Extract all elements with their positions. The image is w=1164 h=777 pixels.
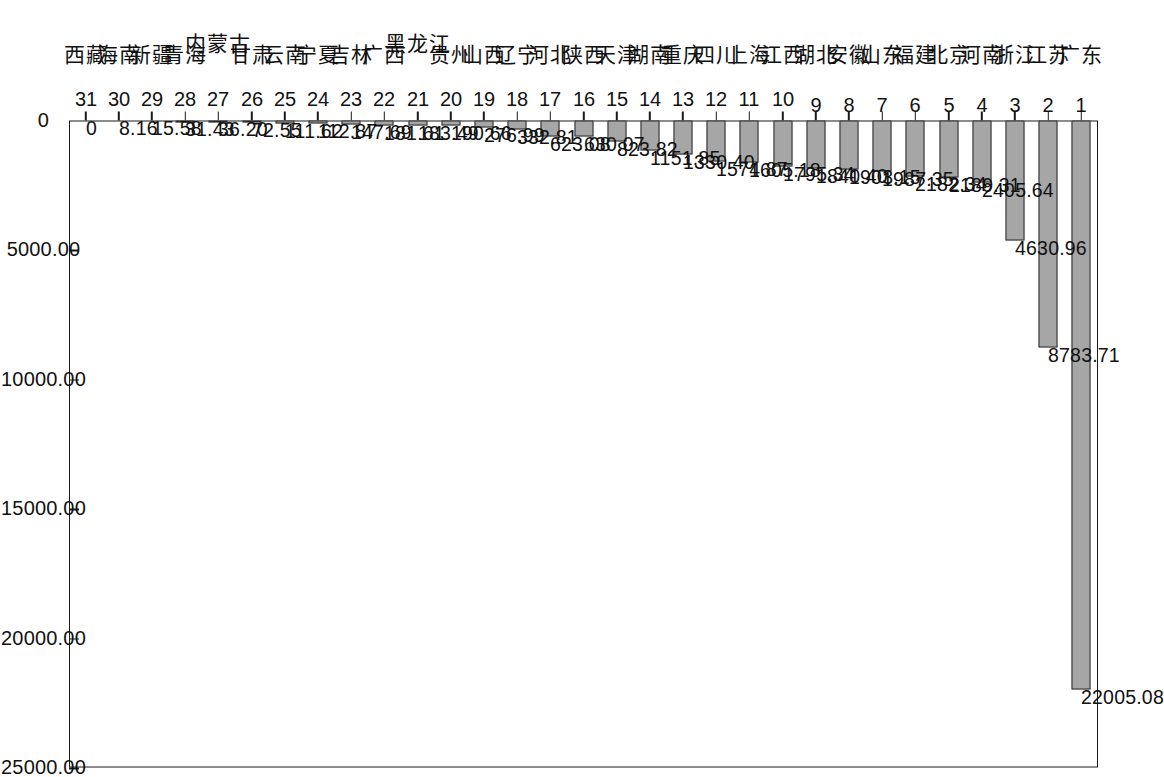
category-index-label: 25 bbox=[274, 87, 296, 110]
bar-row: 15.5829新疆 bbox=[135, 120, 168, 767]
category-tick bbox=[516, 111, 518, 120]
value-axis-tick-label: 15000.00 bbox=[1, 497, 86, 520]
category-index-label: 30 bbox=[108, 87, 130, 110]
category-index-label: 1 bbox=[1076, 93, 1087, 116]
category-tick bbox=[782, 111, 784, 120]
bar[interactable] bbox=[1039, 120, 1058, 347]
bar-value-label: 8783.71 bbox=[1048, 344, 1120, 367]
value-axis-tick-label: 10000.00 bbox=[1, 367, 86, 390]
bar-value-label: 0 bbox=[86, 117, 97, 140]
bar-row: 8.1630海南 bbox=[102, 120, 135, 767]
category-index-label: 21 bbox=[406, 87, 428, 110]
bar-row: 623.0817河北 bbox=[534, 120, 567, 767]
category-tick bbox=[649, 111, 651, 120]
category-index-label: 28 bbox=[174, 87, 196, 110]
bar-row: 1795.3410江西 bbox=[766, 120, 799, 767]
bar-row: 36.2027内蒙古 bbox=[202, 120, 235, 767]
category-index-label: 22 bbox=[373, 87, 395, 110]
bar-value-label: 4630.96 bbox=[1015, 236, 1087, 259]
category-index-label: 18 bbox=[506, 87, 528, 110]
value-axis-tick-label: 5000.00 bbox=[7, 238, 81, 261]
bar[interactable] bbox=[840, 120, 859, 169]
category-index-label: 29 bbox=[141, 87, 163, 110]
category-index-label: 24 bbox=[307, 87, 329, 110]
category-index-label: 17 bbox=[539, 87, 561, 110]
category-tick bbox=[583, 111, 585, 120]
category-index-label: 16 bbox=[572, 87, 594, 110]
category-index-label: 10 bbox=[772, 87, 794, 110]
category-tick bbox=[715, 111, 717, 120]
category-tick bbox=[350, 111, 352, 120]
category-index-label: 19 bbox=[473, 87, 495, 110]
bar-row: 2405.644河南 bbox=[965, 120, 998, 767]
bar-row: 183.4921黑龙江 bbox=[401, 120, 434, 767]
value-axis-tick-label: 0 bbox=[38, 109, 49, 132]
category-index-label: 23 bbox=[340, 87, 362, 110]
bar-row: 1151.8514湖南 bbox=[633, 120, 666, 767]
bar-row: 22005.081广东 bbox=[1065, 120, 1098, 767]
category-index-label: 4 bbox=[976, 93, 987, 116]
category-index-label: 9 bbox=[810, 93, 821, 116]
bar-row: 823.8215天津 bbox=[600, 120, 633, 767]
category-index-label: 6 bbox=[910, 93, 921, 116]
bar-row: 31.4328青海 bbox=[169, 120, 202, 767]
category-index-label: 13 bbox=[672, 87, 694, 110]
category-name-label: 西藏 bbox=[64, 37, 108, 67]
category-index-label: 2 bbox=[1043, 93, 1054, 116]
value-axis-tick-label: 25000.00 bbox=[1, 756, 86, 777]
bar-row: 8783.712江苏 bbox=[1032, 120, 1065, 767]
value-axis: 05000.0010000.0015000.0020000.0025000.00 bbox=[68, 120, 69, 767]
bar-row: 2189.315北京 bbox=[932, 120, 965, 767]
bar-row: 112.8724宁夏 bbox=[301, 120, 334, 767]
bar-rows-container: 22005.081广东8783.712江苏4630.963浙江2405.644河… bbox=[69, 120, 1098, 767]
value-axis-tick-label: 20000.00 bbox=[1, 626, 86, 649]
category-index-label: 15 bbox=[606, 87, 628, 110]
category-index-label: 31 bbox=[74, 87, 96, 110]
bar-row: 147.6923吉林 bbox=[335, 120, 368, 767]
category-index-label: 26 bbox=[240, 87, 262, 110]
category-tick bbox=[417, 111, 419, 120]
category-index-label: 27 bbox=[207, 87, 229, 110]
category-index-label: 3 bbox=[1009, 93, 1020, 116]
category-tick bbox=[483, 111, 485, 120]
bar-row: 2182.346福建 bbox=[899, 120, 932, 767]
bar-value-label: 8.16 bbox=[119, 117, 158, 140]
bar-row: 1987.357山东 bbox=[866, 120, 899, 767]
category-tick bbox=[317, 111, 319, 120]
bar-row: 276.9919山西 bbox=[467, 120, 500, 767]
bar-row: 031西藏 bbox=[69, 120, 102, 767]
category-index-label: 7 bbox=[877, 93, 888, 116]
bar-row: 72.5526甘肃 bbox=[235, 120, 268, 767]
bar-row: 630.0716陕西 bbox=[567, 120, 600, 767]
category-index-label: 5 bbox=[943, 93, 954, 116]
bar-row: 1330.4013重庆 bbox=[667, 120, 700, 767]
category-tick bbox=[749, 111, 751, 120]
bar-row: 332.8118辽宁 bbox=[501, 120, 534, 767]
category-tick bbox=[682, 111, 684, 120]
bar-row: 1605.1811上海 bbox=[733, 120, 766, 767]
bar-row: 111.6225云南 bbox=[268, 120, 301, 767]
category-tick bbox=[450, 111, 452, 120]
category-index-label: 14 bbox=[639, 87, 661, 110]
bar-value-label: 22005.08 bbox=[1081, 686, 1164, 709]
category-tick bbox=[616, 111, 618, 120]
bar-row: 190.6620贵州 bbox=[434, 120, 467, 767]
category-tick bbox=[384, 111, 386, 120]
category-index-label: 11 bbox=[739, 88, 760, 111]
category-tick bbox=[550, 111, 552, 120]
bar-row: 1574.8712四川 bbox=[700, 120, 733, 767]
bar[interactable] bbox=[873, 120, 892, 171]
bar-row: 181.6122广西 bbox=[368, 120, 401, 767]
category-index-label: 12 bbox=[705, 87, 727, 110]
bar-row: 4630.963浙江 bbox=[998, 120, 1031, 767]
category-index-label: 8 bbox=[844, 93, 855, 116]
bar-row: 1840.409湖北 bbox=[799, 120, 832, 767]
category-index-label: 20 bbox=[440, 87, 462, 110]
bar[interactable] bbox=[1072, 120, 1091, 689]
bar-value-label: 15.58 bbox=[152, 117, 202, 140]
bar-row: 1903.158安徽 bbox=[832, 120, 865, 767]
